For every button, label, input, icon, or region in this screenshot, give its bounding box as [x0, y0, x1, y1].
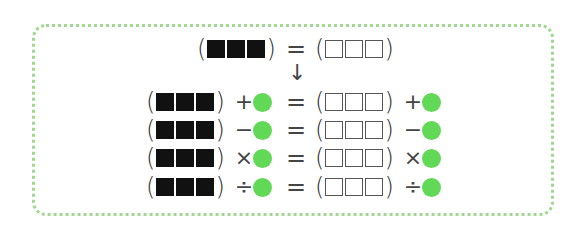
equals-sign: =	[286, 175, 306, 199]
row-minus-right: ( ) −	[315, 117, 441, 143]
operator: ÷	[235, 176, 251, 198]
white-square-icon	[345, 93, 363, 111]
green-circle-icon	[422, 149, 441, 168]
black-square-icon	[196, 149, 214, 167]
left-paren: (	[197, 37, 206, 61]
filled-squares	[207, 40, 265, 58]
white-square-icon	[325, 93, 343, 111]
row-plus-equals: =	[286, 89, 306, 115]
filled-squares	[156, 149, 214, 167]
left-paren: (	[315, 175, 324, 199]
black-square-icon	[176, 149, 194, 167]
black-square-icon	[247, 40, 265, 58]
left-paren: (	[315, 90, 324, 114]
empty-squares	[325, 40, 383, 58]
left-paren: (	[315, 37, 324, 61]
right-paren: )	[215, 175, 224, 199]
row-times-equals: =	[286, 145, 306, 171]
empty-squares	[325, 121, 383, 139]
right-paren: )	[215, 90, 224, 114]
white-square-icon	[365, 121, 383, 139]
white-square-icon	[345, 40, 363, 58]
right-paren: )	[266, 37, 275, 61]
right-paren: )	[384, 90, 393, 114]
right-paren: )	[215, 118, 224, 142]
empty-squares	[325, 149, 383, 167]
header-equals: =	[286, 36, 306, 62]
row-plus-left: ( ) +	[146, 89, 272, 115]
operator: +	[404, 91, 420, 113]
right-paren: )	[384, 175, 393, 199]
row-divide-left: ( ) ÷	[146, 174, 272, 200]
row-divide-right: ( ) ÷	[315, 174, 441, 200]
white-square-icon	[325, 178, 343, 196]
row-plus-right: ( ) +	[315, 89, 441, 115]
row-times-left: ( ) ×	[146, 145, 272, 171]
left-paren: (	[315, 146, 324, 170]
equals-sign: =	[286, 118, 306, 142]
green-circle-icon	[253, 178, 272, 197]
white-square-icon	[365, 178, 383, 196]
filled-squares	[156, 121, 214, 139]
white-square-icon	[365, 93, 383, 111]
left-paren: (	[315, 118, 324, 142]
black-square-icon	[156, 178, 174, 196]
operator: ÷	[404, 176, 420, 198]
left-paren: (	[146, 90, 155, 114]
green-circle-icon	[253, 93, 272, 112]
black-square-icon	[156, 121, 174, 139]
empty-squares	[325, 178, 383, 196]
white-square-icon	[345, 178, 363, 196]
right-paren: )	[384, 118, 393, 142]
operator: −	[235, 119, 251, 141]
right-paren: )	[384, 146, 393, 170]
black-square-icon	[156, 93, 174, 111]
right-paren: )	[215, 146, 224, 170]
left-paren: (	[146, 175, 155, 199]
black-square-icon	[227, 40, 245, 58]
black-square-icon	[176, 93, 194, 111]
white-square-icon	[325, 40, 343, 58]
white-square-icon	[365, 40, 383, 58]
white-square-icon	[345, 149, 363, 167]
operator: −	[404, 119, 420, 141]
equals-sign: =	[286, 37, 306, 61]
green-circle-icon	[253, 121, 272, 140]
black-square-icon	[196, 93, 214, 111]
row-divide-equals: =	[286, 174, 306, 200]
filled-squares	[156, 93, 214, 111]
black-square-icon	[176, 178, 194, 196]
equals-sign: =	[286, 146, 306, 170]
white-square-icon	[325, 149, 343, 167]
green-circle-icon	[422, 93, 441, 112]
left-paren: (	[146, 146, 155, 170]
white-square-icon	[345, 121, 363, 139]
black-square-icon	[156, 149, 174, 167]
white-square-icon	[325, 121, 343, 139]
right-paren: )	[384, 37, 393, 61]
operator: ×	[235, 147, 251, 169]
header-right-group: ( )	[315, 36, 394, 62]
row-minus-equals: =	[286, 117, 306, 143]
row-times-right: ( ) ×	[315, 145, 441, 171]
down-arrow-icon: ↓	[288, 62, 306, 84]
left-paren: (	[146, 118, 155, 142]
green-circle-icon	[422, 178, 441, 197]
operator: +	[235, 91, 251, 113]
empty-squares	[325, 93, 383, 111]
black-square-icon	[196, 178, 214, 196]
filled-squares	[156, 178, 214, 196]
white-square-icon	[365, 149, 383, 167]
green-circle-icon	[253, 149, 272, 168]
row-minus-left: ( ) −	[146, 117, 272, 143]
black-square-icon	[196, 121, 214, 139]
operator: ×	[404, 147, 420, 169]
header-left-group: ( )	[197, 36, 276, 62]
black-square-icon	[176, 121, 194, 139]
black-square-icon	[207, 40, 225, 58]
green-circle-icon	[422, 121, 441, 140]
equals-sign: =	[286, 90, 306, 114]
